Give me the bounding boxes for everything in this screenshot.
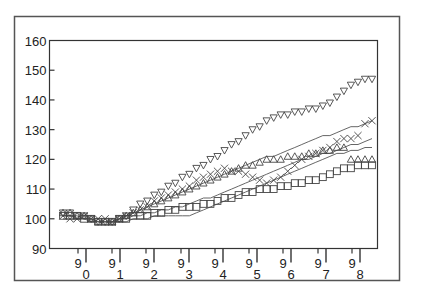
x-major-tick-label: 6: [287, 267, 294, 282]
x-major-tick-label: 3: [185, 267, 192, 282]
y-tick-label: 90: [32, 242, 46, 257]
x-minor-tick-label: 9: [108, 256, 115, 271]
x-major-tick-label: 0: [82, 267, 89, 282]
y-tick-label: 130: [25, 123, 47, 138]
x-minor-tick-label: 9: [211, 256, 218, 271]
y-tick-label: 120: [25, 152, 47, 167]
line-scatter-chart: 90100110120130140150160 0919293949596979…: [0, 0, 426, 305]
y-tick-label: 110: [26, 182, 47, 197]
x-major-tick-label: 8: [356, 267, 363, 282]
x-major-tick-label: 4: [219, 267, 226, 282]
x-minor-tick-label: 9: [74, 256, 81, 271]
x-major-tick-label: 5: [253, 267, 260, 282]
chart-container: 90100110120130140150160 0919293949596979…: [0, 0, 426, 305]
x-minor-tick-label: 9: [142, 256, 149, 271]
x-major-tick-label: 2: [150, 267, 157, 282]
y-tick-label: 150: [25, 63, 47, 78]
x-major-tick-label: 7: [322, 267, 329, 282]
plot-area: [50, 41, 378, 249]
x-minor-tick-label: 9: [245, 256, 252, 271]
x-minor-tick-label: 9: [279, 256, 286, 271]
x-minor-tick-label: 9: [348, 256, 355, 271]
y-tick-label: 140: [25, 93, 47, 108]
x-minor-tick-label: 9: [314, 256, 321, 271]
y-tick-label: 160: [25, 34, 47, 49]
x-major-tick-label: 1: [116, 267, 123, 282]
x-minor-tick-label: 9: [177, 256, 184, 271]
y-tick-label: 100: [25, 212, 47, 227]
